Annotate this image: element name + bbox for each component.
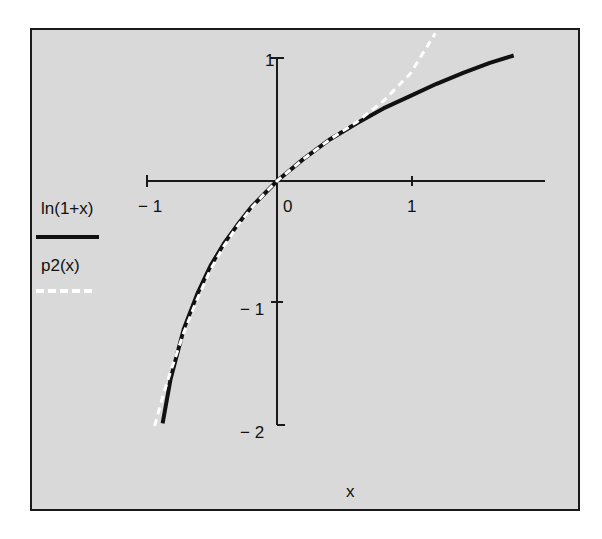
y-tick-label-neg2: − 2 — [240, 424, 264, 441]
legend-swatch-p2 — [36, 289, 94, 293]
plot-area — [0, 0, 602, 539]
legend-label-ln: ln(1+x) — [41, 200, 93, 217]
series-line-0 — [163, 56, 514, 424]
x-tick-label-neg1: − 1 — [138, 198, 162, 215]
y-tick-label-neg1: − 1 — [240, 301, 264, 318]
legend-label-p2: p2(x) — [41, 257, 80, 274]
legend-swatch-ln — [36, 235, 99, 239]
x-tick-label-1: 1 — [407, 198, 416, 215]
x-tick-label-0: 0 — [283, 198, 292, 215]
x-axis-label: x — [346, 483, 355, 500]
series-line-1 — [155, 33, 436, 425]
y-tick-label-1: 1 — [265, 52, 274, 69]
